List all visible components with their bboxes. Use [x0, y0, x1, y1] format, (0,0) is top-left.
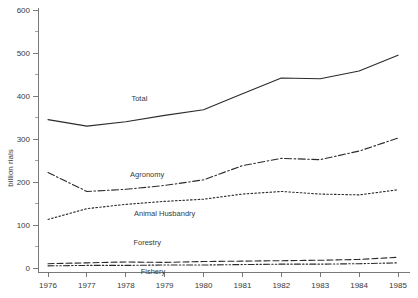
y-tick-label-300: 300: [17, 135, 31, 144]
x-tick-label-1978: 1978: [117, 281, 135, 290]
x-tick-label-1979: 1979: [156, 281, 174, 290]
series-label-agronomy: Agronomy: [130, 170, 164, 179]
x-tick-label-1981: 1981: [234, 281, 252, 290]
y-tick-label-600: 600: [17, 6, 31, 15]
series-line-fishery: [48, 263, 398, 266]
series-label-total: Total: [131, 94, 147, 103]
series-label-animal-husbandry: Animal Husbandry: [134, 209, 196, 218]
x-tick-label-1982: 1982: [272, 281, 290, 290]
y-tick-label-100: 100: [17, 221, 31, 230]
y-tick-label-500: 500: [17, 49, 31, 58]
x-tick-label-1985: 1985: [389, 281, 407, 290]
x-tick-label-1984: 1984: [350, 281, 368, 290]
y-axis-title: billion rials: [6, 149, 15, 186]
x-tick-label-1976: 1976: [39, 281, 57, 290]
y-tick-label-0: 0: [26, 264, 31, 273]
chart-plot-area: 0100200300400500600197619771978197919801…: [0, 0, 418, 298]
series-label-forestry: Forestry: [133, 238, 161, 247]
series-line-forestry: [48, 257, 398, 263]
series-line-total: [48, 55, 398, 126]
series-label-fishery: Fishery: [141, 267, 166, 276]
series-line-agronomy: [48, 138, 398, 191]
x-tick-label-1980: 1980: [195, 281, 213, 290]
line-chart: 0100200300400500600197619771978197919801…: [0, 0, 418, 298]
y-tick-label-200: 200: [17, 178, 31, 187]
x-tick-label-1977: 1977: [78, 281, 96, 290]
x-tick-label-1983: 1983: [311, 281, 329, 290]
series-line-animal-husbandry: [48, 190, 398, 220]
y-tick-label-400: 400: [17, 92, 31, 101]
